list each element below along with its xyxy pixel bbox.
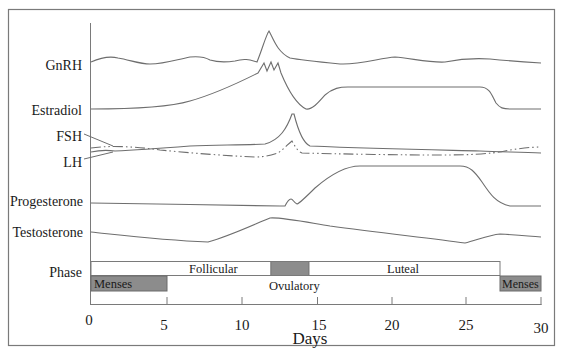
label-phase: Phase (49, 265, 82, 280)
x-tick-label-10: 10 (235, 317, 250, 333)
phase-ovulatory-bar (271, 262, 309, 276)
progesterone-curve (91, 166, 541, 206)
x-tick-label-25: 25 (459, 317, 474, 333)
x-tick-label-30: 30 (534, 320, 549, 336)
label-testosterone: Testosterone (12, 225, 83, 240)
phase-follicular-bar (91, 262, 271, 276)
gnrh-curve (91, 31, 541, 64)
phase-luteal-label: Luteal (387, 262, 419, 276)
x-tick-label-20: 20 (385, 317, 400, 333)
label-fsh: FSH (56, 129, 82, 144)
lh-leader-line (84, 152, 113, 159)
x-tick-label-5: 5 (160, 317, 168, 333)
phase-menses-start-label: Menses (94, 277, 132, 291)
fsh-curve (91, 114, 541, 153)
phase-menses-end-label: Menses (502, 277, 539, 291)
phase-follicular-label: Follicular (189, 262, 238, 276)
label-progesterone: Progesterone (10, 194, 83, 209)
testosterone-curve (91, 218, 541, 243)
phase-ovulatory-label: Ovulatory (269, 279, 320, 293)
x-tick-label-0: 0 (85, 312, 93, 328)
label-gnrh: GnRH (45, 58, 82, 73)
hormone-cycle-chart: GnRH Estradiol FSH LH Progesterone Testo… (0, 0, 565, 357)
fsh-leader-line (84, 134, 113, 146)
label-lh: LH (63, 155, 82, 170)
estradiol-curve (91, 62, 541, 109)
x-axis-title: Days (293, 329, 328, 348)
label-estradiol: Estradiol (31, 103, 82, 118)
lh-curve (91, 141, 541, 157)
